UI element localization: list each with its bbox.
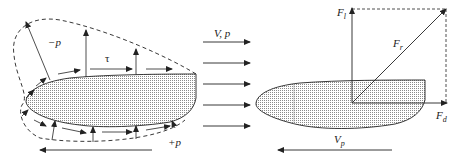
pressure-distribution-panel: −p τ +p — [13, 19, 196, 150]
shear-label: τ — [105, 52, 110, 64]
shear-arrow — [22, 110, 28, 116]
free-stream-flow: V, p — [203, 27, 250, 126]
lift-label: Fl — [336, 6, 347, 21]
force-decomposition-panel: Fl Fr Fd Vp — [256, 6, 448, 150]
drag-label: Fd — [435, 109, 448, 124]
pressure-label: +p — [168, 136, 181, 148]
shear-arrow — [146, 126, 170, 130]
resultant-label: Fr — [392, 37, 404, 52]
body-shape-right — [256, 80, 425, 129]
body-shape — [26, 74, 196, 127]
pressure-arrow — [52, 121, 55, 140]
suction-label: −p — [48, 36, 61, 48]
suction-arrow — [26, 22, 50, 80]
shear-arrow — [58, 70, 80, 74]
velocity-label: Vp — [334, 133, 345, 148]
aerodynamic-force-diagram: −p τ +p V, p Fl Fr Fd Vp — [0, 0, 461, 164]
shear-arrow — [62, 128, 86, 133]
shear-arrow — [34, 120, 46, 126]
flow-label: V, p — [214, 27, 231, 39]
